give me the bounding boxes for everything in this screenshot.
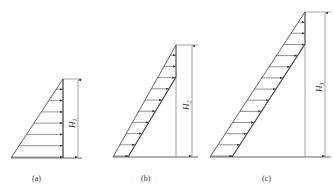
panel-a: H1 (a) — [11, 79, 82, 183]
height-label-h1: H1 — [67, 119, 78, 130]
height-label-h2: H2 — [181, 101, 192, 112]
panel-c: H3 (c) — [210, 12, 331, 183]
caption-c: (c) — [262, 174, 271, 183]
panel-b: H2 (b) — [113, 45, 198, 183]
pressure-diagrams: H1 (a) H2 (b) H3 (c) — [0, 0, 333, 189]
height-label-h3: H3 — [314, 83, 325, 94]
caption-a: (a) — [32, 174, 41, 183]
caption-b: (b) — [141, 174, 151, 183]
